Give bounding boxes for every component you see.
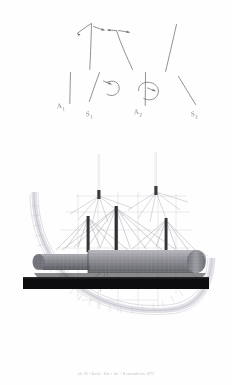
elevation-mast-right <box>165 218 168 252</box>
elevation-cables <box>56 208 196 251</box>
sketch-stroke-right-long <box>117 31 133 70</box>
sketch-vector-s2 <box>179 77 196 105</box>
sketch-stroke-far-right <box>166 25 177 72</box>
hand-sketch-diagram: A1 S1 A2 S2 <box>0 0 232 150</box>
plan-mast-2 <box>154 186 157 195</box>
elevation-mesh <box>34 248 208 274</box>
plan-mast-1 <box>97 190 100 199</box>
document-page: A1 S1 A2 S2 <box>0 0 232 385</box>
sketch-label-s2: S2 <box>191 110 198 120</box>
sketch-label-s1: S1 <box>86 110 93 120</box>
plan-mast-guides <box>98 152 156 192</box>
elevation-plinth-top-edge <box>23 277 209 279</box>
sketch-arrow-1-shaft <box>77 24 90 33</box>
elevation-plinth <box>23 277 209 289</box>
plate-caption: Ab 30 - Dach - Ent - der - Konstruktion … <box>0 372 232 376</box>
elevation-shadow <box>34 273 206 277</box>
sketch-label-a1: A1 <box>57 102 65 112</box>
sketch-label-a2: A2 <box>134 108 142 118</box>
elevation-mast-center <box>115 206 118 252</box>
plan-view <box>30 152 215 314</box>
architectural-render-plate <box>0 150 232 385</box>
sketch-vector-a1 <box>70 73 71 104</box>
sketch-vector-s1 <box>89 73 99 102</box>
elevation-mast-left <box>87 216 90 252</box>
sketch-stroke-left-long <box>90 24 92 70</box>
